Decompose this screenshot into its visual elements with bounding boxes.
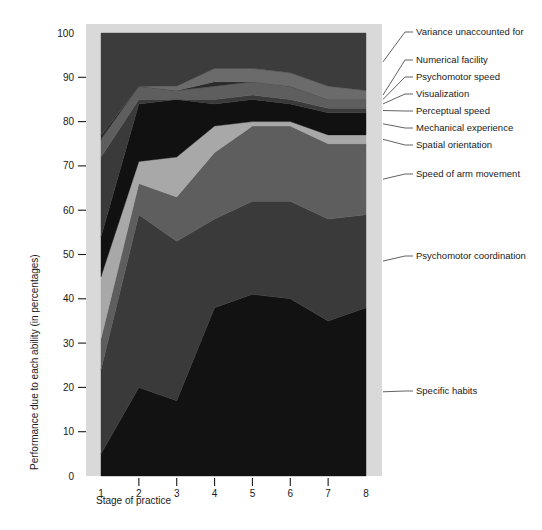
legend-label-variance-unaccounted-for: Variance unaccounted for <box>416 26 524 37</box>
stacked-area-chart: 0102030405060708090100 12345678 Variance… <box>0 0 542 530</box>
y-tick-label: 0 <box>68 471 74 482</box>
y-tick-label: 90 <box>63 72 75 83</box>
legend-label-speed-of-arm-movement: Speed of arm movement <box>416 168 520 179</box>
y-tick-label: 100 <box>57 28 74 39</box>
legend-label-visualization: Visualization <box>416 88 469 99</box>
y-axis-title: Performance due to each ability (in perc… <box>29 254 40 470</box>
x-tick-label: 3 <box>174 488 180 499</box>
y-tick-label: 80 <box>63 116 75 127</box>
x-tick-label: 7 <box>325 488 331 499</box>
x-tick-label: 4 <box>212 488 218 499</box>
legend-label-spatial-orientation: Spatial orientation <box>416 139 492 150</box>
y-tick-label: 60 <box>63 205 75 216</box>
legend-label-numerical-facility: Numerical facility <box>416 54 488 65</box>
legend-label-psychomotor-speed: Psychomotor speed <box>416 71 500 82</box>
legend-label-specific-habits: Specific habits <box>416 385 478 396</box>
area-bands-group <box>91 30 377 479</box>
y-tick-label: 20 <box>63 382 75 393</box>
y-tick-label: 70 <box>63 160 75 171</box>
legend-label-mechanical-experience: Mechanical experience <box>416 122 513 133</box>
x-tick-label: 6 <box>288 488 294 499</box>
x-tick-label: 5 <box>250 488 256 499</box>
y-tick-label: 10 <box>63 426 75 437</box>
x-axis-title: Stage of practice <box>96 495 171 506</box>
y-tick-label: 50 <box>63 249 75 260</box>
legend-label-psychomotor-coordination: Psychomotor coordination <box>416 250 526 261</box>
x-tick-label: 8 <box>363 488 369 499</box>
legend-label-perceptual-speed: Perceptual speed <box>416 105 490 116</box>
y-tick-label: 40 <box>63 293 75 304</box>
chart-figure: 0102030405060708090100 12345678 Variance… <box>0 0 542 530</box>
y-tick-label: 30 <box>63 338 75 349</box>
